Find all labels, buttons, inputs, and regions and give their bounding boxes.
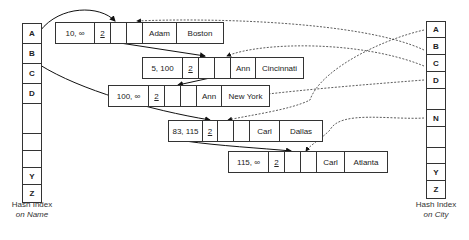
interval: 5, 100: [143, 58, 183, 78]
city-pointer: [181, 86, 197, 106]
bucket-d: D: [427, 72, 445, 89]
city: Atlanta: [345, 152, 387, 172]
record-adam-boston: 10, ∞ 2 Adam Boston: [55, 22, 224, 44]
version: 2: [183, 58, 199, 78]
bucket-empty: [427, 127, 445, 148]
interval: 100, ∞: [109, 86, 149, 106]
city-pointer: [301, 152, 317, 172]
city-pointer: [127, 23, 143, 43]
bucket-y: Y: [23, 168, 41, 185]
version: 2: [95, 23, 111, 43]
name-index-caption: Hash Index on Name: [4, 200, 60, 220]
bucket-d: D: [23, 84, 41, 104]
bucket-c: C: [23, 64, 41, 84]
name-pointer: [218, 121, 234, 141]
record-ann-cincinnati: 5, 100 2 Ann Cincinnati: [142, 57, 304, 79]
name: Ann: [231, 58, 256, 78]
record-carl-atlanta: 115, ∞ 2 Carl Atlanta: [228, 151, 388, 173]
bucket-n: N: [427, 110, 445, 127]
interval: 83, 115: [169, 121, 203, 141]
name-pointer: [111, 23, 127, 43]
bucket-c: C: [427, 55, 445, 72]
bucket-empty: [23, 151, 41, 168]
bucket-b: B: [427, 38, 445, 55]
bucket-empty: [23, 134, 41, 151]
version: 2: [149, 86, 165, 106]
name-pointer: [199, 58, 215, 78]
city: Boston: [177, 23, 223, 43]
name: Carl: [250, 121, 280, 141]
bucket-empty: [427, 89, 445, 110]
hash-index-name: A B C D Y Z: [22, 23, 42, 203]
bucket-b: B: [23, 44, 41, 64]
bucket-a: A: [427, 22, 445, 38]
bucket-empty: [23, 104, 41, 134]
city: Dallas: [280, 121, 322, 141]
name-pointer: [165, 86, 181, 106]
hash-index-city: A B C D N Y Z: [426, 21, 446, 199]
city: New York: [222, 86, 269, 106]
name: Ann: [197, 86, 222, 106]
version: 2: [269, 152, 285, 172]
record-ann-newyork: 100, ∞ 2 Ann New York: [108, 85, 270, 107]
city-index-caption: Hash Index on City: [408, 200, 464, 220]
bucket-a: A: [23, 24, 41, 44]
version: 2: [203, 121, 218, 141]
bucket-z: Z: [427, 181, 445, 198]
bucket-y: Y: [427, 164, 445, 181]
name: Adam: [143, 23, 177, 43]
name: Carl: [317, 152, 345, 172]
name-pointer: [285, 152, 301, 172]
city: Cincinnati: [256, 58, 303, 78]
record-carl-dallas: 83, 115 2 Carl Dallas: [168, 120, 323, 142]
bucket-empty: [427, 148, 445, 164]
city-pointer: [234, 121, 250, 141]
interval: 115, ∞: [229, 152, 269, 172]
interval: 10, ∞: [56, 23, 95, 43]
city-pointer: [215, 58, 231, 78]
